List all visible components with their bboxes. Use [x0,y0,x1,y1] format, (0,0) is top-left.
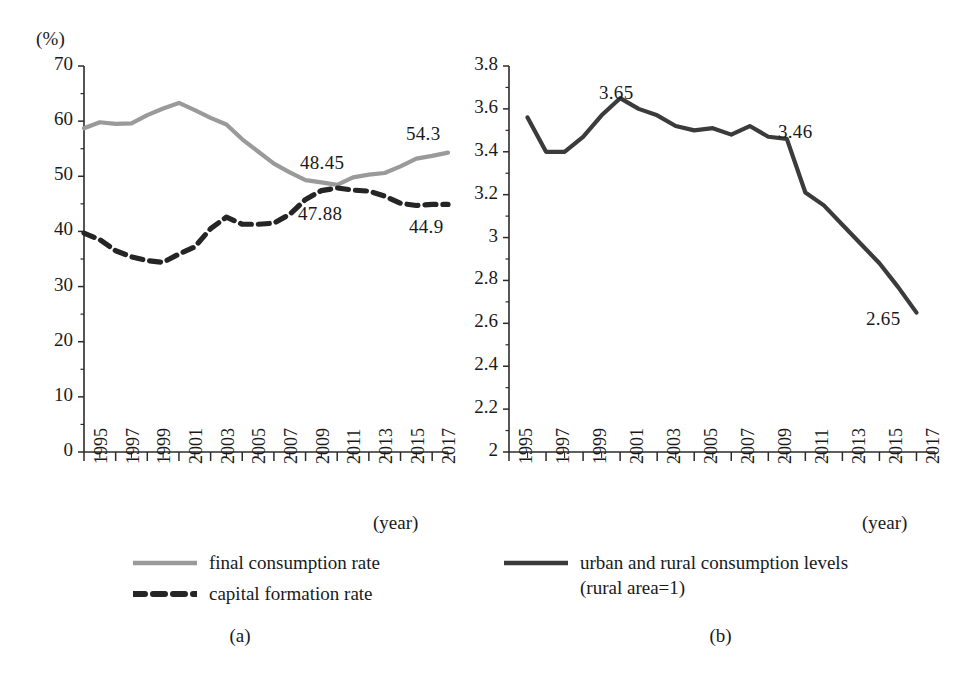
y-axis-tick-label: 3.4 [428,139,498,161]
legend-label: final consumption rate [209,550,380,575]
figure-root: (%) 010203040506070 19951997199920012003… [0,0,961,678]
data-value-label: 2.65 [866,308,900,330]
x-axis-tick-label: 2005 [249,428,270,464]
x-axis-tick-label: 2013 [376,428,397,464]
y-axis-tick-label: 3.6 [428,96,498,118]
x-axis-tick-label: 2015 [408,428,429,464]
y-axis-tick-label: 20 [3,329,73,351]
chart-panel-a: (%) 010203040506070 19951997199920012003… [0,0,480,678]
x-axis-tick-label: 2005 [701,428,722,464]
data-value-label: 3.46 [778,121,812,143]
data-value-label: 47.88 [298,203,342,225]
x-axis-tick-label: 1995 [91,428,112,464]
y-axis-tick-label: 2.6 [428,310,498,332]
legend-swatch-icon [504,555,568,571]
x-axis-tick-label: 2001 [627,428,648,464]
series-line [528,98,917,312]
y-axis-tick-label: 3 [428,225,498,247]
panel-caption-a: (a) [0,625,480,647]
legend-swatch-icon [133,586,197,602]
legend-item: urban and rural consumption levels (rura… [504,550,848,600]
legend-a: final consumption ratecapital formation … [133,550,380,612]
panel-caption-b: (b) [480,625,961,647]
y-axis-tick-label: 2.4 [428,353,498,375]
x-axis-tick-label: 1997 [553,428,574,464]
y-axis-tick-label: 2.2 [428,396,498,418]
legend-label: capital formation rate [209,581,373,606]
legend-item: final consumption rate [133,550,380,575]
y-axis-tick-label: 30 [3,274,73,296]
x-axis-tick-label: 2017 [923,428,944,464]
y-axis-tick-label: 60 [3,108,73,130]
x-axis-tick-label: 2001 [186,428,207,464]
x-axis-tick-label: 2007 [281,428,302,464]
legend-label: urban and rural consumption levels (rura… [580,550,848,600]
x-axis-caption-a: (year) [373,512,418,534]
x-axis-tick-label: 2009 [313,428,334,464]
chart-panel-b: 22.22.42.62.833.23.43.63.8 1995199719992… [480,0,961,678]
y-axis-tick-label: 70 [3,53,73,75]
x-axis-tick-label: 1995 [516,428,537,464]
y-axis-tick-label: 10 [3,384,73,406]
y-axis-tick-label: 2.8 [428,267,498,289]
y-axis-tick-label: 3.2 [428,182,498,204]
legend-swatch-icon [133,555,197,571]
y-axis-tick-label: 0 [3,439,73,461]
y-axis-tick-label: 40 [3,218,73,240]
y-axis-tick-label: 3.8 [428,53,498,75]
y-axis-tick-label: 50 [3,163,73,185]
data-value-label: 48.45 [300,152,344,174]
x-axis-tick-label: 2013 [849,428,870,464]
x-axis-tick-label: 2007 [738,428,759,464]
x-axis-tick-label: 2011 [812,429,833,464]
x-axis-tick-label: 2003 [218,428,239,464]
data-value-label: 3.65 [599,82,633,104]
series-line [84,103,448,185]
legend-item: capital formation rate [133,581,380,606]
legend-b: urban and rural consumption levels (rura… [504,550,848,606]
x-axis-tick-label: 2003 [664,428,685,464]
x-axis-caption-b: (year) [862,512,907,534]
x-axis-tick-label: 1999 [154,428,175,464]
x-axis-tick-label: 2009 [775,428,796,464]
x-axis-tick-label: 2011 [344,429,365,464]
x-axis-tick-label: 1997 [123,428,144,464]
series-line [84,188,448,262]
x-axis-tick-label: 2015 [886,428,907,464]
x-axis-tick-label: 1999 [590,428,611,464]
y-axis-tick-label: 2 [428,439,498,461]
